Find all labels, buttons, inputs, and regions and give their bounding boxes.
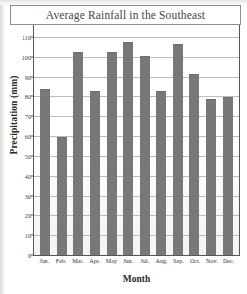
bar bbox=[57, 137, 67, 255]
y-axis-title: Precipitation (mm) bbox=[9, 45, 19, 185]
x-axis-title: Month bbox=[33, 274, 240, 284]
bar-slot bbox=[170, 17, 187, 255]
x-tick-label: Feb. bbox=[53, 258, 70, 264]
bar-slot bbox=[87, 17, 104, 255]
bar-chart-figure: Precipitation (mm) 010203040506070809010… bbox=[0, 0, 247, 294]
bar-slot bbox=[203, 17, 220, 255]
bar-slot bbox=[219, 17, 236, 255]
bar bbox=[173, 44, 183, 255]
y-tick-label: 70 bbox=[25, 113, 31, 120]
x-tick-label: Oct. bbox=[187, 258, 204, 264]
bar bbox=[90, 91, 100, 255]
x-tick-label: Jun. bbox=[120, 258, 137, 264]
x-tick-label: Dec. bbox=[220, 258, 237, 264]
bar-series bbox=[34, 17, 239, 255]
y-tick-label: 10 bbox=[25, 232, 31, 239]
bar bbox=[107, 52, 117, 255]
bar-slot bbox=[120, 17, 137, 255]
bar-slot bbox=[37, 17, 54, 255]
x-tick-label: Jul. bbox=[137, 258, 154, 264]
y-tick-label: 40 bbox=[25, 172, 31, 179]
y-tick-label: 0 bbox=[28, 252, 31, 259]
bar bbox=[140, 56, 150, 255]
x-tick-label: Aug. bbox=[153, 258, 170, 264]
y-tick-label: 90 bbox=[25, 73, 31, 80]
x-tick-label: Apr. bbox=[86, 258, 103, 264]
x-axis-ticks: Jan.Feb.Mar.Apr.MayJun.Jul.Aug.Sep.Oct.N… bbox=[33, 258, 240, 264]
bar-slot bbox=[136, 17, 153, 255]
x-tick-label: Nov. bbox=[204, 258, 221, 264]
chart-title-box: Average Rainfall in the Southeast bbox=[10, 5, 241, 25]
y-tick-label: 20 bbox=[25, 212, 31, 219]
bar bbox=[206, 99, 216, 255]
bar bbox=[40, 89, 50, 255]
bar bbox=[189, 74, 199, 255]
chart-title: Average Rainfall in the Southeast bbox=[46, 9, 205, 21]
bar bbox=[156, 91, 166, 255]
bar bbox=[223, 97, 233, 255]
y-tick-label: 100 bbox=[22, 53, 31, 60]
y-tick-label: 30 bbox=[25, 192, 31, 199]
x-tick-label: Mar. bbox=[70, 258, 87, 264]
y-tick-label: 50 bbox=[25, 152, 31, 159]
bar-slot bbox=[103, 17, 120, 255]
bar-slot bbox=[70, 17, 87, 255]
x-tick-label: Jan. bbox=[36, 258, 53, 264]
bar bbox=[73, 52, 83, 255]
plot-area: 0102030405060708090100110120 bbox=[33, 16, 240, 256]
x-tick-label: May bbox=[103, 258, 120, 264]
y-tick-label: 60 bbox=[25, 133, 31, 140]
bar-slot bbox=[54, 17, 71, 255]
y-tick-label: 110 bbox=[22, 33, 31, 40]
bar-slot bbox=[186, 17, 203, 255]
x-tick-label: Sep. bbox=[170, 258, 187, 264]
bar bbox=[123, 42, 133, 255]
bar-slot bbox=[153, 17, 170, 255]
y-tick-label: 80 bbox=[25, 93, 31, 100]
